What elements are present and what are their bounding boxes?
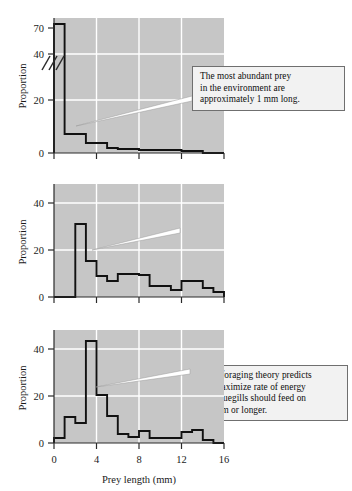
y-tick-label: 20 [34, 95, 45, 106]
callout-box-environment: The most abundant prey in the environmen… [192, 66, 345, 111]
callout-line: approximately 1 mm long. [200, 94, 338, 106]
x-tick-label: 4 [94, 454, 100, 465]
figure-three-panel-prey-histograms: 0 20 40 70 Proportion The most abundant … [0, 0, 352, 491]
callout-line: in the environment are [200, 83, 338, 95]
y-tick-label: 20 [34, 245, 45, 256]
y-tick-label: 70 [34, 23, 45, 34]
x-tick-marks [54, 153, 224, 159]
panel-2-chart: 0 20 40 Proportion [0, 172, 352, 320]
y-tick-label: 40 [34, 344, 45, 355]
y-tick-label: 40 [34, 198, 45, 209]
y-tick-label: 0 [39, 438, 44, 449]
y-tick-label: 0 [39, 292, 44, 303]
y-tick-label: 0 [39, 148, 44, 159]
panel-prey-environment: 0 20 40 70 Proportion The most abundant … [0, 0, 352, 172]
y-axis-title: Proportion [17, 365, 28, 411]
x-axis-title: Prey length (mm) [102, 474, 177, 486]
y-tick-marks [48, 349, 54, 443]
x-tick-marks [54, 297, 224, 303]
x-tick-label: 0 [51, 454, 56, 465]
callout-line: The most abundant prey [200, 71, 338, 83]
x-tick-label: 8 [136, 454, 141, 465]
y-tick-label: 20 [34, 391, 45, 402]
y-tick-marks [48, 203, 54, 297]
panel-3-chart: 0 20 40 Proportion 0 4 8 12 16 Prey leng… [0, 320, 352, 491]
panel-bluegill-diets: 0 20 40 Proportion 0 4 8 12 16 Prey leng… [0, 320, 352, 491]
y-tick-label: 40 [34, 49, 45, 60]
y-axis-title: Proportion [17, 219, 28, 265]
panel-optimal-foraging: 0 20 40 Proportion Optimal foraging theo… [0, 172, 352, 320]
x-tick-marks [54, 443, 224, 449]
x-tick-label: 12 [176, 454, 187, 465]
x-tick-label: 16 [219, 454, 230, 465]
y-axis-title: Proportion [17, 63, 28, 109]
